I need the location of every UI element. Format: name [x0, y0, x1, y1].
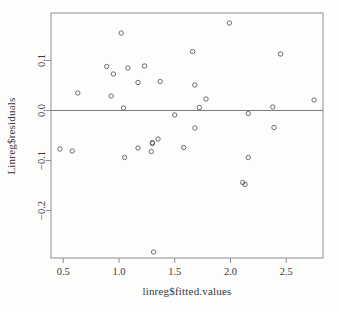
- data-point: [76, 91, 80, 95]
- data-point: [271, 105, 275, 109]
- data-point: [111, 72, 115, 76]
- x-tick-label: 1.0: [112, 266, 125, 277]
- y-tick-label: −0.1: [36, 151, 47, 170]
- data-point: [105, 64, 109, 68]
- data-point: [58, 147, 62, 151]
- data-point: [193, 83, 197, 87]
- y-tick-label: 0.0: [36, 104, 47, 117]
- plot-box: [51, 13, 323, 258]
- x-tick-label: 1.5: [168, 266, 181, 277]
- y-tick-label: 0.1: [36, 54, 47, 67]
- data-point: [227, 21, 231, 25]
- data-point: [70, 149, 74, 153]
- scatter-plot-canvas: 0.51.01.52.02.50.10.0−0.1−0.2: [0, 0, 339, 312]
- data-point: [126, 66, 130, 70]
- data-point: [156, 137, 160, 141]
- y-tick-label: −0.2: [36, 201, 47, 220]
- data-point: [182, 145, 186, 149]
- data-point: [151, 250, 155, 254]
- data-point: [190, 49, 194, 53]
- data-point: [136, 80, 140, 84]
- data-point: [272, 125, 276, 129]
- data-point: [119, 31, 123, 35]
- r-scatter-plot-figure: 0.51.01.52.02.50.10.0−0.1−0.2 linreg$fit…: [0, 0, 339, 312]
- data-point: [142, 64, 146, 68]
- data-point: [136, 146, 140, 150]
- data-point: [197, 105, 201, 109]
- data-point: [278, 52, 282, 56]
- x-tick-label: 2.0: [224, 266, 237, 277]
- data-point: [109, 94, 113, 98]
- data-point: [246, 111, 250, 115]
- data-point: [173, 113, 177, 117]
- x-tick-label: 0.5: [57, 266, 70, 277]
- x-tick-label: 2.5: [280, 266, 293, 277]
- x-axis-title: linreg$fitted.values: [51, 283, 323, 299]
- data-point: [204, 97, 208, 101]
- data-point: [158, 79, 162, 83]
- data-point: [121, 106, 125, 110]
- y-axis-title: Linreg$residuals: [3, 65, 19, 207]
- data-point: [149, 149, 153, 153]
- data-point: [122, 155, 126, 159]
- data-point: [312, 98, 316, 102]
- data-point: [246, 155, 250, 159]
- data-point: [193, 126, 197, 130]
